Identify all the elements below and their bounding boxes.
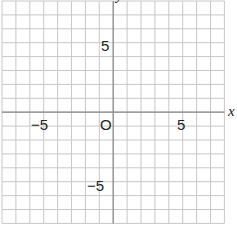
tick-label-y-pos5: 5	[101, 38, 109, 53]
x-axis-label: x	[228, 104, 235, 119]
y-axis-label: y	[116, 0, 123, 3]
tick-label-x-neg5: −5	[31, 117, 48, 132]
tick-label-y-neg5: −5	[87, 178, 104, 193]
tick-label-x-pos5: 5	[177, 117, 185, 132]
origin-label: O	[100, 117, 112, 132]
